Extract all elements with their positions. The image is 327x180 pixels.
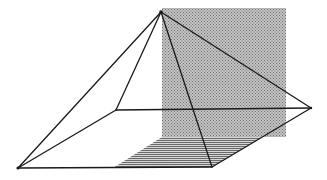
apex-point <box>159 10 163 14</box>
base-right-point <box>310 107 312 109</box>
base-edge-left <box>18 110 116 168</box>
base-edge-front <box>18 167 212 168</box>
lateral-edge-left <box>18 12 161 168</box>
pyramid-diagram: Pyramid with apex above a quadrilateral … <box>0 0 327 180</box>
hatched-base-region <box>113 137 262 168</box>
diagram-canvas <box>0 0 327 180</box>
base-left-point <box>16 166 19 169</box>
lateral-edge-back-left <box>116 12 161 110</box>
